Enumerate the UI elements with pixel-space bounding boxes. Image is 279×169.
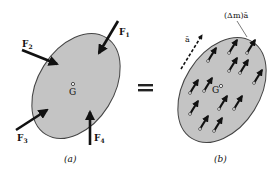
panel-a: G F1 F2 F3 F4 (a) xyxy=(14,18,139,164)
force-label-f2: F2 xyxy=(22,39,33,50)
equals-sign xyxy=(138,84,153,91)
rigid-body-a xyxy=(14,18,139,155)
panel-b: ā (Δm)ā xyxy=(160,11,279,164)
rigid-body-b xyxy=(160,22,279,159)
center-of-mass-marker-b xyxy=(219,84,222,87)
center-of-mass-marker-a xyxy=(71,82,74,85)
acceleration-label: ā xyxy=(185,35,190,44)
force-label-f1: F1 xyxy=(119,27,130,38)
caption-a: (a) xyxy=(64,154,77,164)
force-label-f4: F4 xyxy=(94,133,105,144)
center-of-mass-label-a: G xyxy=(69,87,76,97)
mass-element-label: (Δm)ā xyxy=(224,11,249,20)
force-label-f3: F3 xyxy=(17,133,28,144)
center-of-mass-label-b: G xyxy=(212,85,219,95)
leader-line xyxy=(237,21,247,37)
rigid-body-diagram: G F1 F2 F3 F4 (a) ā (Δm)ā xyxy=(0,0,279,169)
caption-b: (b) xyxy=(214,154,227,164)
